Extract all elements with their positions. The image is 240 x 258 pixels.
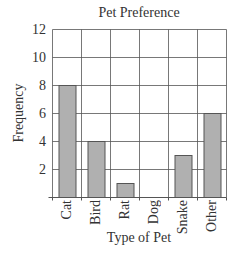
y-tick-label: 4 bbox=[26, 134, 46, 150]
x-tick-label-bird: Bird bbox=[88, 200, 104, 225]
bar-cat bbox=[59, 86, 76, 198]
y-tick-label: 12 bbox=[26, 22, 46, 38]
y-tick-label: 10 bbox=[26, 50, 46, 66]
y-tick-label: 2 bbox=[26, 162, 46, 178]
x-tick-label-dog: Dog bbox=[146, 200, 162, 224]
bar-other bbox=[204, 114, 221, 198]
bar-rat bbox=[117, 184, 134, 198]
x-tick-label-other: Other bbox=[204, 200, 220, 232]
bar-bird bbox=[88, 142, 105, 198]
x-tick-label-rat: Rat bbox=[117, 200, 133, 219]
bar-snake bbox=[175, 156, 192, 198]
y-tick-label: 8 bbox=[26, 78, 46, 94]
y-tick-label: 6 bbox=[26, 106, 46, 122]
x-tick-label-snake: Snake bbox=[175, 200, 191, 234]
x-tick-label-cat: Cat bbox=[59, 200, 75, 219]
